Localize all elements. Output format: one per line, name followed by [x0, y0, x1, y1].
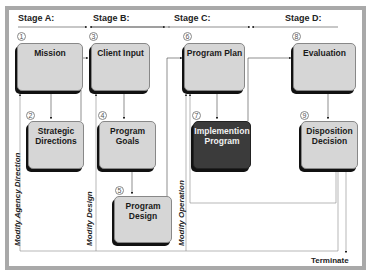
box-label: Client Input: [97, 48, 144, 58]
modify-design-label: Modify Design: [85, 191, 94, 246]
box-label: Mission: [34, 48, 66, 58]
step-number-6: 6: [183, 32, 192, 41]
step-number-9: 9: [300, 111, 309, 120]
box-label: Strategic Directions: [35, 126, 77, 146]
box-program-design: Program Design: [114, 196, 172, 243]
terminate-label: Terminate: [311, 256, 349, 265]
modify-operation-label: Modify Operation: [177, 180, 186, 246]
step-number-7: 7: [192, 111, 201, 120]
box-program-goals: Program Goals: [99, 121, 156, 169]
step-number-8: 8: [292, 32, 301, 41]
step-number-3: 3: [89, 32, 98, 41]
step-number-5: 5: [115, 186, 124, 195]
box-client-input: Client Input: [91, 43, 150, 91]
step-number-2: 2: [26, 111, 35, 120]
box-label: Program Plan: [187, 48, 242, 58]
step-number-4: 4: [98, 111, 107, 120]
box-strategic-directions: Strategic Directions: [28, 121, 84, 169]
box-program-plan: Program Plan: [184, 43, 245, 91]
box-disposition-decision: Disposition Decision: [301, 121, 358, 169]
box-label: Program Goals: [110, 126, 145, 146]
box-label: Implemention Program: [194, 126, 249, 146]
box-implemention-program: Implemention Program: [193, 121, 251, 169]
box-evaluation: Evaluation: [293, 43, 356, 91]
box-mission: Mission: [17, 43, 83, 91]
box-label: Evaluation: [303, 48, 346, 58]
box-label: Program Design: [126, 201, 161, 221]
box-label: Disposition Decision: [306, 126, 352, 146]
step-number-1: 1: [17, 32, 26, 41]
modify-agency-direction-label: Modify Agency Direction: [13, 153, 22, 247]
